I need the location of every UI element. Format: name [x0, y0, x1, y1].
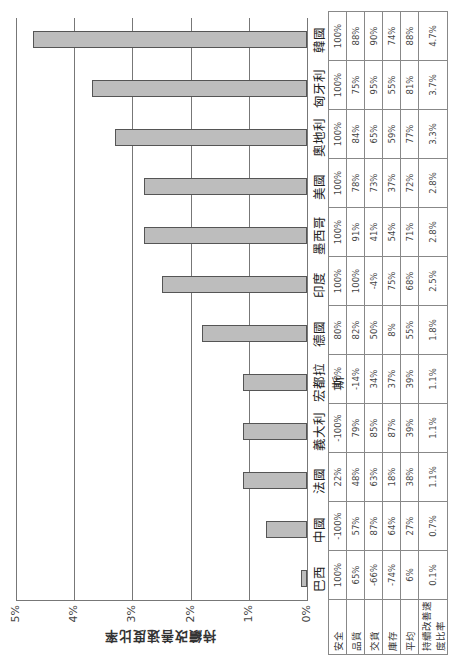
table-cell: 73%: [365, 159, 383, 208]
table-cell: -4%: [365, 257, 383, 306]
table-cell: 71%: [401, 208, 419, 257]
table-cell: 90%: [365, 12, 383, 61]
table-cell: 84%: [347, 110, 365, 159]
table-cell: 59%: [383, 110, 401, 159]
table-cell: 4.7%: [419, 12, 448, 61]
table-cell: 38%: [401, 453, 419, 502]
category-label: 匈牙利: [309, 64, 328, 113]
row-header: 庫存: [383, 600, 401, 655]
table-cell: 100%: [329, 159, 347, 208]
category-label: 印度: [309, 260, 328, 309]
table-cell: 27%: [401, 502, 419, 551]
y-axis-title: 持續改善速度比率: [90, 628, 230, 647]
bar: [202, 325, 307, 342]
table-cell: 3.3%: [419, 110, 448, 159]
category-label: 中國: [309, 505, 328, 554]
bar: [33, 31, 307, 48]
table-cell: 100%: [329, 12, 347, 61]
data-table: 安全100%-100%22%-100%100%80%100%100%100%10…: [328, 11, 448, 655]
table-cell: 50%: [365, 306, 383, 355]
table-cell: 79%: [347, 404, 365, 453]
gridline: [132, 18, 133, 601]
table-cell: 100%: [329, 110, 347, 159]
table-row: 交貨-66%87%63%85%34%50%-4%41%73%65%95%90%: [365, 12, 383, 655]
table-cell: 72%: [401, 159, 419, 208]
table-cell: 100%: [329, 61, 347, 110]
category-label: 法國: [309, 456, 328, 505]
table-cell: 2.8%: [419, 159, 448, 208]
table-cell: 75%: [383, 257, 401, 306]
gridline: [307, 18, 308, 601]
bar: [243, 472, 307, 489]
table-row: 安全100%-100%22%-100%100%80%100%100%100%10…: [329, 12, 347, 655]
table-cell: 88%: [347, 12, 365, 61]
table-cell: 1.1%: [419, 355, 448, 404]
category-label: 韓國: [309, 15, 328, 64]
table-cell: 39%: [401, 404, 419, 453]
table-cell: 65%: [347, 551, 365, 600]
row-header: 交貨: [365, 600, 383, 655]
table-cell: 81%: [401, 61, 419, 110]
table-cell: 85%: [365, 404, 383, 453]
table-cell: 37%: [383, 355, 401, 404]
bar: [144, 227, 307, 244]
table-cell: 1.1%: [419, 453, 448, 502]
category-label: 美國: [309, 162, 328, 211]
table-cell: 54%: [383, 208, 401, 257]
row-header: 品質: [347, 600, 365, 655]
y-tick-label: 1%: [242, 605, 255, 627]
y-tick-label: 0%: [300, 605, 313, 627]
row-header: 安全: [329, 600, 347, 655]
table-cell: -74%: [383, 551, 401, 600]
table-cell: 41%: [365, 208, 383, 257]
table-cell: 64%: [383, 502, 401, 551]
table-cell: 91%: [347, 208, 365, 257]
bar: [144, 178, 307, 195]
table-cell: 77%: [401, 110, 419, 159]
table-cell: 78%: [347, 159, 365, 208]
gridline: [74, 18, 75, 601]
y-tick-label: 3%: [125, 605, 138, 627]
table-cell: -14%: [347, 355, 365, 404]
bar: [92, 80, 307, 97]
table-cell: 6%: [401, 551, 419, 600]
gridline: [249, 18, 250, 601]
y-tick-label: 2%: [184, 605, 197, 627]
table-cell: 39%: [401, 355, 419, 404]
table-cell: 82%: [347, 306, 365, 355]
table-cell: 22%: [329, 453, 347, 502]
category-label: 墨西哥: [309, 211, 328, 260]
table-cell: 65%: [365, 110, 383, 159]
table-cell: 8%: [383, 306, 401, 355]
category-label: 德國: [309, 309, 328, 358]
table-cell: 87%: [365, 502, 383, 551]
table-row: 持續改善速度比率0.1%0.7%1.1%1.1%1.1%1.8%2.5%2.8%…: [419, 12, 448, 655]
table-cell: 100%: [329, 208, 347, 257]
table-cell: 63%: [365, 453, 383, 502]
bar: [243, 423, 307, 440]
table-row: 平均6%27%38%39%39%55%68%71%72%77%81%88%: [401, 12, 419, 655]
table-cell: 74%: [383, 12, 401, 61]
gridline: [16, 18, 17, 601]
bar: [162, 276, 308, 293]
table-cell: 37%: [383, 159, 401, 208]
row-header: 持續改善速度比率: [419, 600, 448, 655]
table-row: 庫存-74%64%18%87%37%8%75%54%37%59%55%74%: [383, 12, 401, 655]
table-cell: 0.1%: [419, 551, 448, 600]
table-cell: 55%: [383, 61, 401, 110]
table-cell: 100%: [329, 257, 347, 306]
table-cell: 68%: [401, 257, 419, 306]
table-cell: 75%: [347, 61, 365, 110]
bar: [243, 374, 307, 391]
rotated-chart-figure: 持續改善速度比率 安全100%-100%22%-100%100%80%100%1…: [0, 0, 453, 667]
bar: [266, 521, 307, 538]
table-cell: 0.7%: [419, 502, 448, 551]
table-cell: 87%: [383, 404, 401, 453]
gridline: [191, 18, 192, 601]
table-cell: 55%: [401, 306, 419, 355]
bar: [301, 570, 307, 587]
category-label: 宏都拉斯: [309, 358, 347, 407]
table-cell: 18%: [383, 453, 401, 502]
table-cell: -66%: [365, 551, 383, 600]
y-tick-label: 5%: [9, 605, 22, 627]
